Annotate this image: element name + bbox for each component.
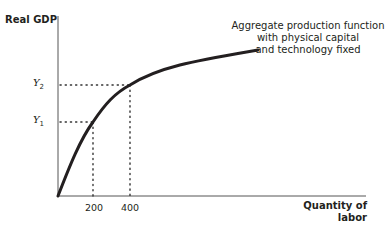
production-function-curve	[58, 50, 258, 196]
curve-annotation: Aggregate production function with physi…	[226, 20, 390, 56]
y-tick-y2-base: Y	[33, 77, 40, 88]
annotation-line2: with physical capital	[226, 32, 390, 44]
x-tick-200: 200	[85, 202, 103, 213]
x-axis-label-line1: Quantity of	[287, 200, 367, 212]
x-axis-label: Quantity of labor	[287, 200, 367, 224]
y-axis-label: Real GDP	[5, 14, 57, 25]
annotation-line3: and technology fixed	[226, 44, 390, 56]
y-tick-y1: Y1	[33, 114, 44, 128]
y-tick-y2: Y2	[33, 77, 44, 91]
y-tick-y2-sub: 2	[40, 83, 44, 91]
x-tick-400: 400	[121, 202, 139, 213]
annotation-line1: Aggregate production function	[226, 20, 390, 32]
x-axis-label-line2: labor	[287, 212, 367, 224]
y-tick-y1-base: Y	[33, 114, 40, 125]
y-tick-y1-sub: 1	[40, 120, 44, 128]
